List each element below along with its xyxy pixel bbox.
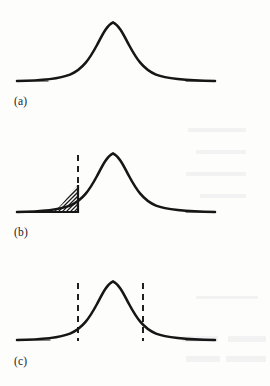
gaussian-curve-a (17, 22, 215, 81)
gaussian-curve-c (17, 281, 215, 340)
panel-c-plot (0, 258, 270, 386)
gaussian-curve-b (17, 153, 215, 212)
panel-b-label: (b) (14, 227, 28, 239)
shaded-tail-region-b (40, 178, 108, 222)
panel-c-label: (c) (14, 356, 27, 368)
panel-a-plot (0, 0, 270, 130)
panel-a: (a) (0, 0, 270, 130)
panel-b: (b) (0, 130, 270, 258)
panel-c: (c) (0, 258, 270, 386)
panel-b-plot (0, 130, 270, 258)
figure-container: (a) (0, 0, 270, 386)
panel-a-label: (a) (14, 96, 27, 108)
